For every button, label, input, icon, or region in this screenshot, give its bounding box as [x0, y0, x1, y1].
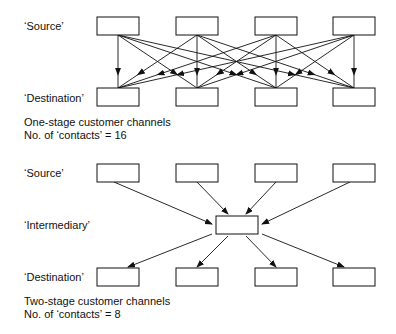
destination-box	[255, 88, 297, 106]
source-box	[333, 17, 375, 35]
destination-box	[97, 88, 139, 106]
source-box	[97, 164, 139, 182]
destination-box	[255, 268, 297, 286]
source-label-1: ‘Source’	[24, 20, 64, 33]
two-stage-diagram	[97, 164, 375, 286]
destination-box	[333, 268, 375, 286]
source-box	[333, 164, 375, 182]
intermediary-box	[216, 216, 258, 234]
destination-label-2: ‘Destination’	[24, 271, 84, 284]
contact-arrow	[128, 234, 212, 267]
source-box	[255, 164, 297, 182]
destination-box	[176, 88, 218, 106]
destination-box	[176, 268, 218, 286]
caption-1-line2: No. of ‘contacts’ = 16	[24, 129, 127, 142]
source-label-2: ‘Source’	[24, 167, 64, 180]
caption-2-line1: Two-stage customer channels	[24, 295, 170, 308]
source-box	[176, 164, 218, 182]
contact-arrow	[246, 182, 276, 214]
destination-box	[333, 88, 375, 106]
contact-arrow	[114, 182, 212, 224]
source-box	[255, 17, 297, 35]
destination-label-1: ‘Destination’	[24, 92, 84, 105]
source-box	[97, 17, 139, 35]
caption-1-line1: One-stage customer channels	[24, 116, 171, 129]
caption-2-line2: No. of ‘contacts’ = 8	[24, 308, 121, 321]
contact-arrow	[197, 182, 228, 214]
destination-box	[97, 268, 139, 286]
contact-arrow	[246, 236, 276, 267]
contact-arrow	[197, 236, 228, 267]
one-stage-diagram	[97, 17, 375, 106]
intermediary-label: ‘Intermediary’	[24, 219, 90, 232]
source-box	[176, 17, 218, 35]
